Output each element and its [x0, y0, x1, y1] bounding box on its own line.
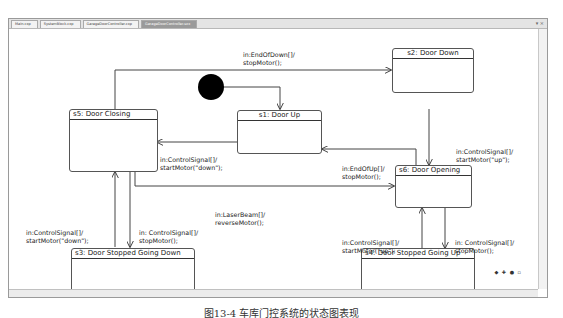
transition-label-s2-to-s6: in:ControlSignal[]/startMotor("up"); — [456, 148, 513, 164]
state-s1-door-up[interactable]: s1: Door Up — [237, 110, 322, 154]
state-title: s2: Door Down — [393, 49, 473, 59]
vertical-scrollbar[interactable] — [538, 29, 547, 289]
transition-label-s1-to-s5: in:ControlSignal[]/startMotor("down"); — [160, 156, 223, 172]
state-s2-door-down[interactable]: s2: Door Down — [392, 48, 474, 93]
state-title: s1: Door Up — [238, 111, 321, 121]
transition-label-laser-beam: in:LaserBeam[]/reverseMotor(); — [215, 211, 265, 227]
transition-label-s6-to-s4: in: ControlSignal[]/stopMotor(); — [455, 239, 514, 255]
state-title: s6: Door Opening — [396, 166, 471, 176]
state-s3-door-stopped-going-down[interactable]: s3: Door Stopped Going Down — [71, 248, 195, 292]
transition-label-s5-to-s3: in: ControlSignal[]/stopMotor(); — [139, 229, 198, 245]
tab-system-block[interactable]: SystemBlock.cxp — [40, 20, 81, 28]
tab-main[interactable]: Main.cxp — [11, 20, 38, 28]
figure-caption: 图13-4 车库门控系统的状态图表现 — [0, 305, 563, 318]
editor-tab-bar: Main.cxp SystemBlock.cxp GarageDoorContr… — [9, 19, 547, 29]
transition-label-s3-to-s5: in:ControlSignal[]/startMotor("down"); — [26, 229, 89, 245]
tab-garage-door-controller-cxp[interactable]: GarageDoorController.cxp — [83, 20, 139, 28]
state-diagram-canvas[interactable]: s1: Door Up s2: Door Down s5: Door Closi… — [9, 29, 538, 289]
transition-label-end-of-up: in:EndOfUp[]/stopMotor(); — [342, 165, 385, 181]
zoom-controls[interactable]: ◆ ✚ ● ▫ — [494, 269, 522, 275]
tab-garage-door-controller-sxx[interactable]: GarageDoorController.sxx — [141, 20, 197, 28]
transition-label-s4-to-s6: in:ControlSignal[]/startMotor("up"); — [342, 239, 399, 255]
diagram-editor-window: Main.cxp SystemBlock.cxp GarageDoorContr… — [8, 18, 548, 298]
transition-label-end-of-down: in:EndOfDown[]/stopMotor(); — [243, 51, 295, 67]
state-title: s3: Door Stopped Going Down — [72, 249, 194, 259]
window-controls[interactable]: ▾ × — [536, 20, 544, 26]
initial-state-node — [198, 74, 224, 100]
state-s5-door-closing[interactable]: s5: Door Closing — [69, 109, 158, 172]
state-title: s5: Door Closing — [70, 110, 157, 120]
state-s6-door-opening[interactable]: s6: Door Opening — [395, 165, 472, 208]
horizontal-scrollbar[interactable] — [9, 289, 538, 297]
